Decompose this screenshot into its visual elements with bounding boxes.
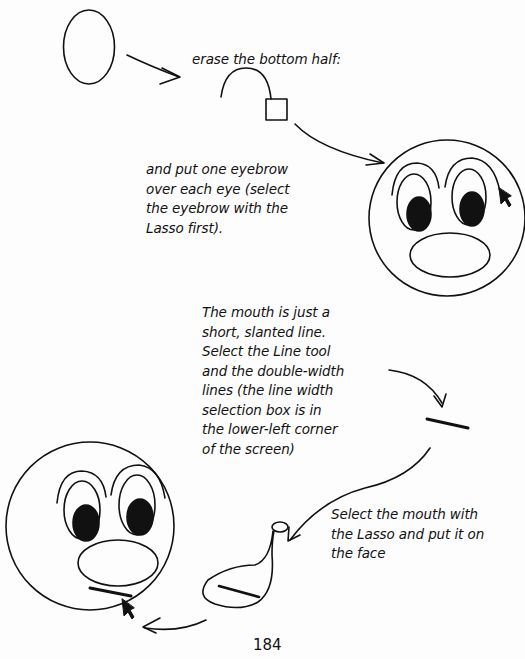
caption-erase: erase the bottom half: <box>192 50 341 70</box>
half-oval-eyebrow <box>221 68 271 99</box>
mouth-line <box>427 419 468 428</box>
caption-lasso: Select the mouth with the Lasso and put … <box>331 505 484 564</box>
caption-eyebrow: and put one eyebrow over each eye (selec… <box>146 160 289 238</box>
pointer-arrow-icon <box>122 599 134 619</box>
oval-shape <box>64 10 115 84</box>
pointer-arrow-icon <box>499 188 511 207</box>
arrow-icon <box>143 618 206 633</box>
face-with-eyebrows <box>369 140 525 296</box>
lasso-selection <box>203 522 288 608</box>
arrow-icon <box>295 124 384 165</box>
caption-mouth: The mouth is just a short, slanted line.… <box>202 303 344 459</box>
book-page: erase the bottom half: and put one eyebr… <box>0 0 525 659</box>
arrow-icon <box>389 370 446 407</box>
arrow-icon <box>127 55 180 84</box>
eraser-square-icon <box>266 99 287 120</box>
page-number: 184 <box>253 636 282 654</box>
finished-face <box>6 442 174 610</box>
